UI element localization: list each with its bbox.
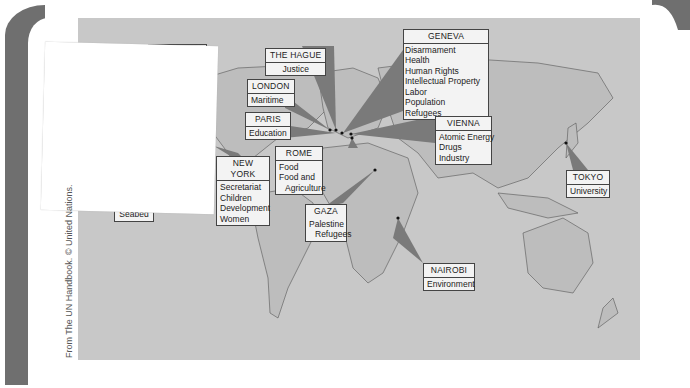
label-topic: Children bbox=[220, 193, 266, 204]
label-topic: Palestine bbox=[309, 219, 343, 230]
city-dot bbox=[350, 136, 353, 139]
label-topic: Maritime bbox=[251, 95, 291, 106]
label-geneva: GENEVA Disarmament Health Human Rights I… bbox=[403, 29, 489, 120]
label-topic: Education bbox=[249, 128, 287, 139]
city-dot bbox=[340, 131, 343, 134]
label-title: LONDON bbox=[248, 80, 294, 94]
label-the-hague: THE HAGUE Justice bbox=[265, 48, 326, 76]
label-topic: Health bbox=[405, 55, 487, 66]
label-title: ROME bbox=[276, 147, 322, 161]
label-topic: Labor bbox=[405, 87, 487, 98]
page-tab-right bbox=[650, 0, 690, 40]
label-topic: Population bbox=[405, 97, 487, 108]
label-title: GENEVA bbox=[404, 30, 488, 44]
label-london: LONDON Maritime bbox=[247, 79, 295, 107]
australia bbox=[523, 218, 593, 293]
label-nairobi: NAIROBI Environment bbox=[423, 263, 475, 291]
city-dot bbox=[334, 128, 337, 131]
label-new-york: NEW YORK Secretariat Children Developmen… bbox=[216, 156, 270, 226]
label-topic: Intellectual Property bbox=[405, 76, 487, 87]
label-topic: Food bbox=[279, 162, 319, 173]
label-topic: Food and bbox=[279, 172, 319, 183]
city-dot bbox=[349, 132, 352, 135]
label-topic: Agriculture bbox=[279, 183, 319, 194]
credit-line: From The UN Handbook. © United Nations. bbox=[64, 184, 74, 358]
wedge-nairobi bbox=[393, 218, 423, 263]
wedge-rome bbox=[348, 138, 358, 148]
label-title: TOKYO bbox=[567, 171, 609, 185]
label-topic: Disarmament bbox=[405, 45, 487, 56]
city-dot bbox=[564, 141, 567, 144]
label-topic: Environment bbox=[427, 279, 471, 290]
label-gaza: GAZA Palestine Refugees bbox=[305, 204, 347, 242]
wedge-tokyo bbox=[566, 143, 588, 170]
label-title: PARIS bbox=[246, 113, 290, 127]
label-topic: Justice bbox=[269, 64, 322, 75]
label-topic: Human Rights bbox=[405, 66, 487, 77]
label-tokyo: TOKYO University bbox=[566, 170, 610, 198]
new-zealand bbox=[598, 298, 618, 328]
label-topic: Atomic Energy bbox=[439, 132, 488, 143]
city-dot bbox=[396, 216, 399, 219]
label-topic: Drugs bbox=[439, 142, 488, 153]
label-paris: PARIS Education bbox=[245, 112, 291, 140]
label-topic: Women bbox=[220, 214, 266, 225]
label-topic: Development bbox=[220, 203, 266, 214]
label-title: THE HAGUE bbox=[266, 49, 325, 63]
label-rome: ROME Food Food and Agriculture bbox=[275, 146, 323, 195]
label-vienna: VIENNA Atomic Energy Drugs Industry bbox=[435, 116, 492, 165]
city-dot bbox=[373, 168, 376, 171]
label-topic: Secretariat bbox=[220, 182, 266, 193]
label-topic: University bbox=[570, 186, 606, 197]
label-topic: Industry bbox=[439, 153, 488, 164]
label-title: NEW YORK bbox=[217, 157, 269, 181]
label-topic: Refugees bbox=[309, 229, 343, 240]
label-title: VIENNA bbox=[436, 117, 491, 131]
label-title: NAIROBI bbox=[424, 264, 474, 278]
city-dot bbox=[328, 128, 331, 131]
label-title: GAZA bbox=[306, 205, 346, 218]
